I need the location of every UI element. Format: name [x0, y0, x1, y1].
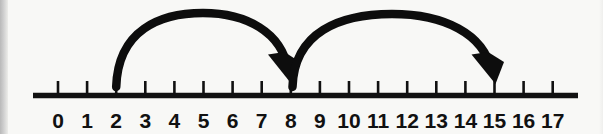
first-jump-arrow — [116, 13, 300, 87]
tick-label-11: 11 — [367, 109, 390, 132]
second-jump-arrow — [293, 14, 505, 87]
tick-labels-group: 0 1 2 3 4 5 6 7 8 9 10 11 12 13 14 15 16… — [52, 109, 564, 132]
tick-label-14: 14 — [454, 109, 478, 132]
tick-label-2: 2 — [110, 109, 122, 132]
second-jump-arrowhead-icon — [472, 52, 505, 84]
tick-label-5: 5 — [198, 109, 210, 132]
tick-label-9: 9 — [314, 109, 326, 132]
tick-label-6: 6 — [227, 109, 239, 132]
tick-label-1: 1 — [81, 109, 93, 132]
tick-label-12: 12 — [396, 109, 419, 132]
tick-label-3: 3 — [139, 109, 151, 132]
tick-label-17: 17 — [541, 109, 564, 132]
tick-label-4: 4 — [169, 109, 181, 132]
second-jump-arc — [293, 14, 492, 87]
tick-label-0: 0 — [52, 109, 64, 132]
tick-label-10: 10 — [337, 109, 360, 132]
tick-label-15: 15 — [483, 109, 507, 132]
number-line-diagram: 0 1 2 3 4 5 6 7 8 9 10 11 12 13 14 15 16… — [0, 0, 603, 134]
tick-marks-group — [58, 81, 553, 93]
tick-label-8: 8 — [285, 109, 297, 132]
tick-label-13: 13 — [425, 109, 448, 132]
number-line-figure: 0 1 2 3 4 5 6 7 8 9 10 11 12 13 14 15 16… — [0, 0, 603, 134]
first-jump-arc — [116, 13, 288, 87]
tick-label-7: 7 — [256, 109, 268, 132]
tick-label-16: 16 — [512, 109, 535, 132]
